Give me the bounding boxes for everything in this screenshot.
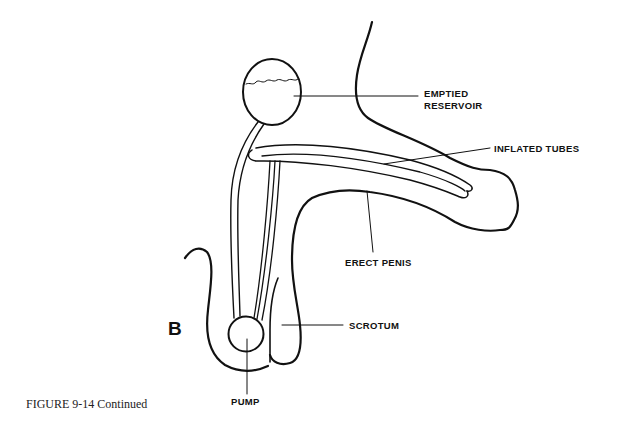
diagram-drawing [0, 0, 621, 436]
label-inflated-tubes: INFLATED TUBES [494, 143, 579, 155]
panel-letter: B [168, 318, 182, 340]
reservoir [243, 59, 301, 125]
reservoir-tube [238, 124, 264, 316]
label-line: RESERVOIR [424, 100, 483, 112]
pump [229, 317, 264, 352]
cylinder-tube [262, 161, 280, 320]
scrotum-fold [270, 278, 278, 362]
reservoir-fluid-line [246, 79, 298, 84]
label-scrotum: SCROTUM [349, 320, 399, 332]
figure-caption: FIGURE 9-14 Continued [26, 397, 147, 412]
cylinder-tube [254, 161, 270, 318]
label-erect-penis: ERECT PENIS [345, 257, 412, 269]
label-pump: PUMP [231, 396, 260, 408]
body-outline [270, 22, 518, 364]
leader-penis [367, 191, 373, 252]
label-emptied-reservoir: EMPTIED RESERVOIR [424, 88, 483, 112]
label-line: EMPTIED [424, 88, 483, 100]
reservoir-tube [231, 122, 258, 318]
inflated-tube-mid [262, 154, 465, 191]
